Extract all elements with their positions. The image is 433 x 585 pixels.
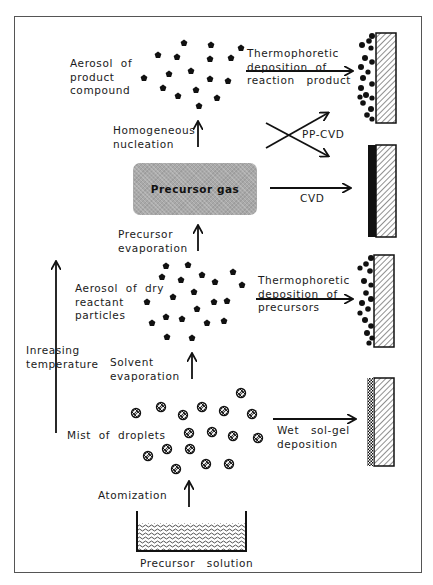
solvent-evaporation-label: Solvent evaporation [110,356,180,383]
substrate-precursor-deposit [357,255,394,347]
precursor-evaporation-label: Precursor evaporation [118,228,188,255]
thermophoretic-product-label: Thermophoretic deposition of reaction pr… [247,47,351,88]
substrate-cvd-film [368,145,396,237]
diagram-canvas [0,0,433,585]
thermophoretic-precursors-label: Thermophoretic deposition of precursors [258,274,350,315]
precursor-solution-label: Precursor solution [140,557,253,571]
increasing-temperature-label: Inreasing temperature [26,344,99,371]
cvd-label: CVD [300,192,324,206]
homogeneous-nucleation-label: Homogeneous nucleation [113,124,195,151]
precursor-solution-container [137,511,246,551]
substrate-product-deposit [357,33,396,123]
aerosol-dry-label: Aerosol of dry reactant particles [75,282,164,323]
precursor-gas-label: Precursor gas [151,183,240,195]
precursor-gas-box: Precursor gas [133,163,257,215]
mist-of-droplets-label: Mist of droplets [67,429,166,443]
aerosol-product-label: Aerosol of product compound [70,57,132,98]
product-aerosol-particles [141,39,245,109]
wet-sol-gel-label: Wet sol-gel deposition [277,424,350,451]
atomization-label: Atomization [98,489,167,503]
pp-cvd-label: PP-CVD [302,128,344,142]
substrate-sol-gel [367,378,394,466]
